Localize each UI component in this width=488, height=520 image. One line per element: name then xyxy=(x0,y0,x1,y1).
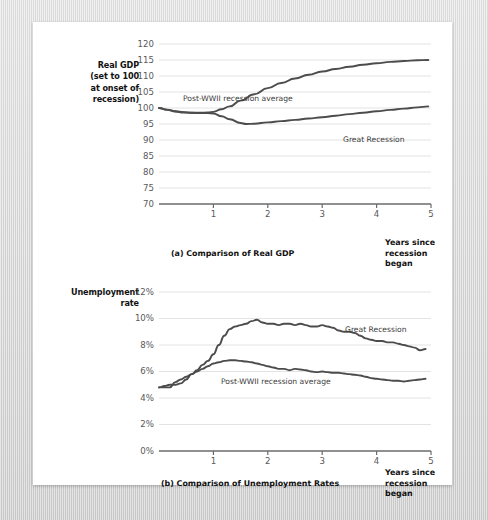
x-tick-label: 3 xyxy=(315,457,329,466)
series-line-post-wwii-recession-average xyxy=(159,60,428,113)
x-tick-label: 1 xyxy=(206,457,220,466)
x-tick-label: 1 xyxy=(206,210,220,219)
unemployment-plot-area xyxy=(33,257,452,485)
y-tick-label: 0% xyxy=(128,447,154,456)
y-tick-label: 6% xyxy=(128,367,154,376)
y-tick-label: 75 xyxy=(128,184,154,193)
y-tick-label: 4% xyxy=(128,394,154,403)
y-tick-label: 2% xyxy=(128,420,154,429)
x-tick-label: 4 xyxy=(370,210,384,219)
y-tick-label: 10% xyxy=(128,314,154,323)
gdp-label-post-wwii: Post-WWII recession average xyxy=(183,94,293,103)
y-tick-label: 120 xyxy=(128,40,154,49)
document-page: Real GDP (set to 100 at onset of recessi… xyxy=(33,22,452,485)
y-tick-label: 110 xyxy=(128,72,154,81)
x-tick-label: 5 xyxy=(424,457,438,466)
x-tick-label: 2 xyxy=(261,210,275,219)
unemployment-label-post-wwii: Post-WWII recession average xyxy=(221,377,331,386)
y-tick-label: 90 xyxy=(128,136,154,145)
unemployment-x-axis-title: Years since recession began xyxy=(385,468,452,500)
y-tick-label: 105 xyxy=(128,88,154,97)
y-tick-label: 80 xyxy=(128,168,154,177)
series-line-great-recession xyxy=(159,106,428,124)
figure-unemployment: Unemployment rate 0%2%4%6%8%10%12% 12345… xyxy=(33,257,452,485)
unemployment-caption: (b) Comparison of Unemployment Rates xyxy=(161,479,339,488)
y-tick-label: 100 xyxy=(128,104,154,113)
unemployment-x-axis-title-line-1: Years since xyxy=(385,468,452,479)
unemployment-label-great-recession: Great Recession xyxy=(345,325,407,334)
y-tick-label: 85 xyxy=(128,152,154,161)
figure-real-gdp: Real GDP (set to 100 at onset of recessi… xyxy=(33,22,452,257)
y-tick-label: 95 xyxy=(128,120,154,129)
gdp-label-great-recession: Great Recession xyxy=(343,135,405,144)
y-tick-label: 70 xyxy=(128,200,154,209)
x-tick-label: 5 xyxy=(424,210,438,219)
y-tick-label: 115 xyxy=(128,56,154,65)
x-tick-label: 3 xyxy=(315,210,329,219)
y-tick-label: 8% xyxy=(128,341,154,350)
y-tick-label: 12% xyxy=(128,288,154,297)
x-tick-label: 4 xyxy=(370,457,384,466)
x-tick-label: 2 xyxy=(261,457,275,466)
gdp-x-axis-title-line-1: Years since xyxy=(385,238,452,249)
unemployment-x-axis-title-line-2: recession began xyxy=(385,479,452,500)
